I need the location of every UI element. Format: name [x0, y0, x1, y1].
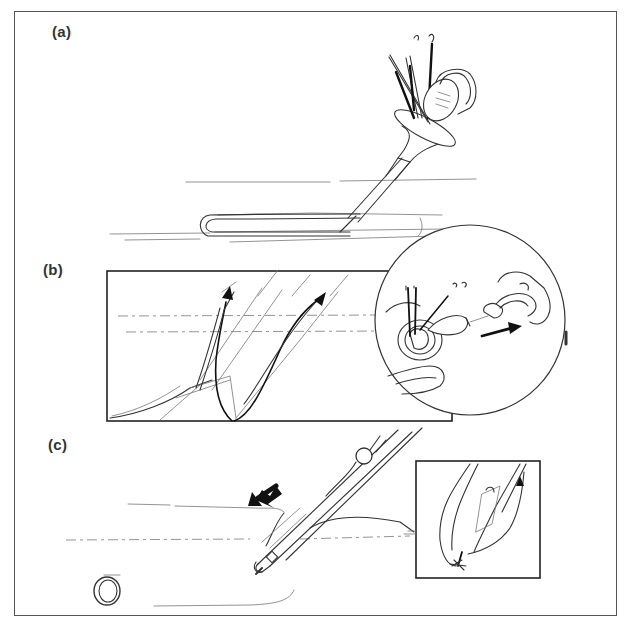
panel-label-b: (b)	[43, 261, 63, 278]
panel-label-c: (c)	[48, 436, 67, 453]
panel-c-illustration	[66, 428, 540, 606]
illustration	[0, 0, 634, 630]
panel-a-illustration	[110, 34, 476, 242]
panel-label-a: (a)	[52, 23, 71, 40]
panel-b-illustration	[107, 225, 566, 421]
